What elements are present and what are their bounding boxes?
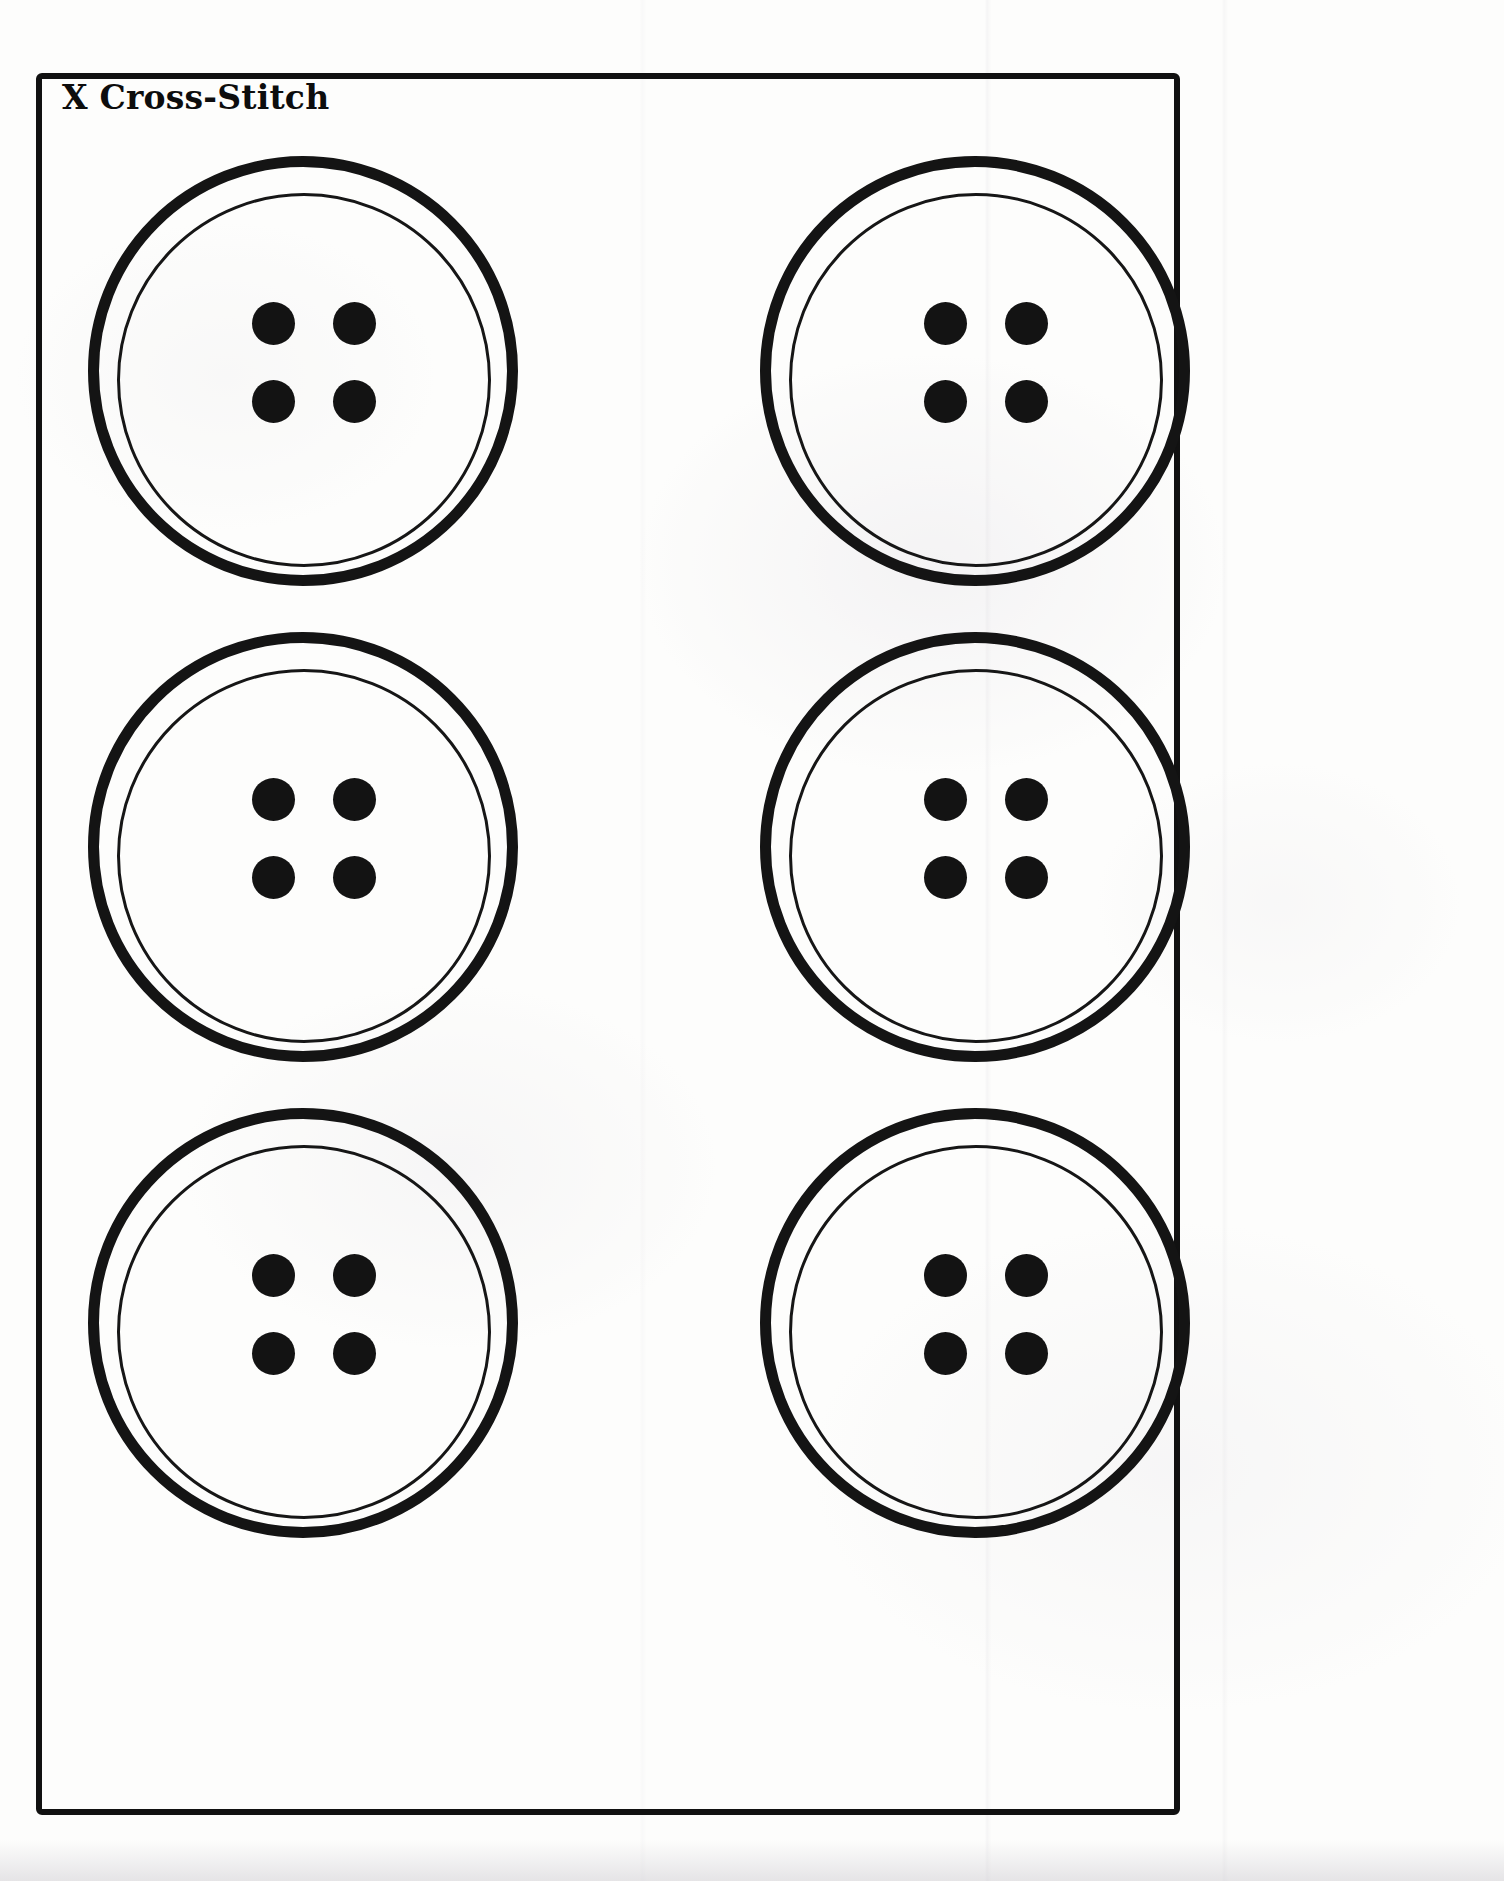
page-title: X Cross-Stitch — [62, 78, 329, 117]
button-illustration — [760, 156, 1190, 586]
button-hole-group — [88, 156, 518, 586]
button-hole-bottom-right — [1005, 380, 1048, 423]
button-hole-group — [88, 632, 518, 1062]
button-hole-top-left — [252, 778, 295, 821]
button-hole-top-left — [924, 778, 967, 821]
button-illustration — [760, 632, 1190, 1062]
button-hole-group — [760, 1108, 1190, 1538]
button-illustration — [760, 1108, 1190, 1538]
button-illustration — [88, 632, 518, 1062]
scan-edge-shadow — [0, 1840, 1504, 1881]
button-hole-bottom-left — [252, 856, 295, 899]
button-hole-bottom-right — [333, 380, 376, 423]
button-hole-bottom-right — [1005, 1332, 1048, 1375]
button-hole-bottom-left — [924, 856, 967, 899]
button-illustration — [88, 1108, 518, 1538]
button-hole-bottom-left — [252, 1332, 295, 1375]
button-hole-top-right — [1005, 778, 1048, 821]
scanned-page: X Cross-Stitch — [0, 0, 1504, 1881]
button-hole-bottom-left — [924, 380, 967, 423]
button-hole-bottom-right — [333, 856, 376, 899]
button-hole-top-right — [333, 302, 376, 345]
button-hole-top-left — [924, 1254, 967, 1297]
button-hole-group — [88, 1108, 518, 1538]
button-hole-bottom-left — [924, 1332, 967, 1375]
button-hole-top-right — [1005, 1254, 1048, 1297]
button-hole-bottom-right — [1005, 856, 1048, 899]
button-hole-top-left — [252, 302, 295, 345]
button-illustration — [88, 156, 518, 586]
button-hole-bottom-left — [252, 380, 295, 423]
button-hole-bottom-right — [333, 1332, 376, 1375]
button-hole-group — [760, 632, 1190, 1062]
button-hole-top-right — [333, 778, 376, 821]
button-hole-group — [760, 156, 1190, 586]
button-hole-top-right — [1005, 302, 1048, 345]
button-hole-top-right — [333, 1254, 376, 1297]
button-hole-top-left — [252, 1254, 295, 1297]
button-hole-top-left — [924, 302, 967, 345]
